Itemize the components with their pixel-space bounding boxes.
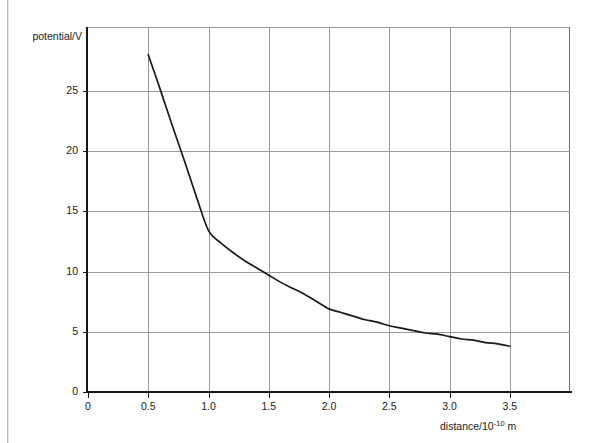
- gridline-vertical: [269, 27, 270, 392]
- y-axis-line: [86, 27, 88, 393]
- tick-mark-x: [148, 393, 149, 398]
- gridline-vertical: [329, 27, 330, 392]
- tick-mark-y: [83, 91, 88, 92]
- tick-mark-y: [83, 151, 88, 152]
- gridline-vertical: [148, 27, 149, 392]
- plot-right-border: [569, 27, 570, 392]
- tick-mark-x: [209, 393, 210, 398]
- gridline-vertical: [389, 27, 390, 392]
- y-tick-label: 10: [50, 265, 78, 277]
- tick-mark-x: [269, 393, 270, 398]
- x-tick-label: 2.5: [374, 400, 404, 412]
- gridline-horizontal: [88, 151, 570, 152]
- tick-mark-x: [389, 393, 390, 398]
- tick-mark-x: [510, 393, 511, 398]
- plot-area: [88, 27, 570, 392]
- gridline-vertical: [209, 27, 210, 392]
- tick-mark-x: [88, 393, 89, 398]
- y-tick-label: 5: [50, 325, 78, 337]
- x-tick-label: 0: [73, 400, 103, 412]
- x-tick-label: 0.5: [133, 400, 163, 412]
- gridline-horizontal: [88, 211, 570, 212]
- x-axis-title-base: distance/10: [440, 420, 494, 432]
- tick-mark-y: [83, 272, 88, 273]
- gridline-horizontal: [88, 332, 570, 333]
- y-tick-label: 20: [50, 144, 78, 156]
- gridline-horizontal: [88, 272, 570, 273]
- x-tick-label: 2.0: [314, 400, 344, 412]
- x-tick-label: 1.5: [254, 400, 284, 412]
- gridline-horizontal: [88, 91, 570, 92]
- y-tick-label: 25: [50, 84, 78, 96]
- x-axis-title-exponent: -10: [494, 419, 505, 428]
- tick-mark-x: [450, 393, 451, 398]
- tick-mark-x: [329, 393, 330, 398]
- gridline-vertical: [450, 27, 451, 392]
- y-tick-label: 15: [50, 204, 78, 216]
- tick-mark-y: [83, 332, 88, 333]
- potential-distance-chart: 0510152025 00.51.01.52.02.53.03.5 potent…: [0, 0, 595, 443]
- x-tick-label: 3.0: [435, 400, 465, 412]
- x-tick-label: 3.5: [495, 400, 525, 412]
- tick-mark-y: [83, 211, 88, 212]
- graph-page: 0510152025 00.51.01.52.02.53.03.5 potent…: [0, 0, 595, 443]
- x-axis-title-unit: m: [505, 420, 517, 432]
- y-tick-label: 0: [50, 385, 78, 397]
- x-tick-label: 1.0: [194, 400, 224, 412]
- y-axis-title: potential/V: [8, 30, 82, 42]
- gridline-vertical: [510, 27, 511, 392]
- x-axis-title: distance/10-10 m: [440, 420, 516, 432]
